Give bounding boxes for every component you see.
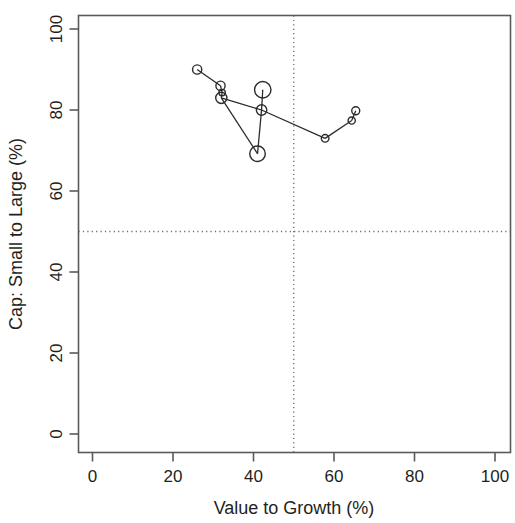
y-tick-label: 80 [47, 101, 66, 120]
y-axis-title: Cap: Small to Large (%) [6, 138, 26, 330]
y-tick-label: 20 [47, 344, 66, 363]
x-tick-label: 40 [244, 467, 263, 486]
x-tick-label: 100 [481, 467, 509, 486]
y-tick-label: 0 [47, 429, 66, 438]
y-tick-label: 100 [47, 15, 66, 43]
x-tick-label: 0 [88, 467, 97, 486]
x-tick-label: 60 [325, 467, 344, 486]
figure-background [0, 0, 515, 523]
x-axis-title: Value to Growth (%) [214, 498, 375, 518]
y-tick-label: 60 [47, 182, 66, 201]
x-tick-label: 80 [405, 467, 424, 486]
scatter-plot-figure: 020406080100 020406080100 Value to Growt… [0, 0, 515, 523]
x-tick-label: 20 [164, 467, 183, 486]
y-tick-label: 40 [47, 263, 66, 282]
